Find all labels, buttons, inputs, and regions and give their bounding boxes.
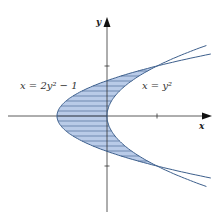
right-parabola-label: x = y² [142, 80, 172, 91]
x-axis-arrow-icon [202, 113, 212, 120]
y-axis-label: y [96, 17, 101, 27]
plot-canvas [0, 0, 219, 218]
y-axis-arrow-icon [104, 17, 111, 27]
region-between-parabolas-diagram: x = 2y² − 1 x = y² y x [0, 0, 219, 218]
left-parabola-label: x = 2y² − 1 [20, 80, 78, 91]
x-axis-label: x [199, 121, 204, 131]
